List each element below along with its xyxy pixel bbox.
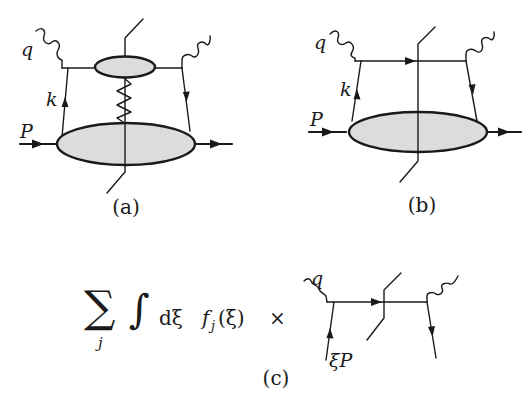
sum-index: j <box>95 334 103 352</box>
photon-left-b <box>330 31 355 61</box>
arrow-right-icon <box>405 57 416 65</box>
arrow-right-icon <box>371 298 382 306</box>
label-q-b: q <box>314 31 326 53</box>
cut-line-a <box>107 19 143 193</box>
caption-a: (a) <box>112 195 140 219</box>
hadron-blob-a <box>57 123 195 165</box>
label-q-a: q <box>21 38 33 60</box>
caption-c: (c) <box>263 366 290 390</box>
arrow-right-icon <box>498 128 510 137</box>
photon-right-a <box>182 36 210 68</box>
arrow-right-icon <box>32 140 44 149</box>
label-q-c: q <box>311 267 323 289</box>
photon-right-b <box>466 32 494 61</box>
panel-c: ∑ j ∫ dξ f j (ξ) × q ξP (c) <box>84 267 458 390</box>
arrow-up-icon <box>62 97 69 107</box>
label-k-b: k <box>340 78 352 100</box>
label-xip-c: ξP <box>329 349 353 371</box>
photon-left-a <box>36 29 62 68</box>
arrow-right-icon <box>322 128 334 137</box>
hard-blob-a <box>95 57 155 78</box>
caption-b: (b) <box>408 193 436 217</box>
sum-symbol: ∑ <box>84 281 115 332</box>
measure-dxi: dξ <box>159 306 183 330</box>
label-p-a: P <box>19 120 34 142</box>
pdf-argument: (ξ) <box>218 306 245 330</box>
panel-b: q k P (b) <box>309 27 521 217</box>
arrow-down-icon <box>428 326 435 337</box>
cut-line-c-bottom <box>367 302 384 340</box>
panel-a: q k P (a) <box>19 19 232 219</box>
integral-symbol: ∫ <box>129 286 150 332</box>
photon-right-c <box>427 276 458 302</box>
arrow-up-icon <box>354 89 361 100</box>
arrow-up-icon <box>327 328 334 339</box>
arrow-down-icon <box>183 92 190 103</box>
times-symbol: × <box>269 306 286 330</box>
label-p-b: P <box>309 108 324 130</box>
label-k-a: k <box>46 88 58 110</box>
cut-line-c-top <box>384 273 401 302</box>
arrow-right-icon <box>210 140 222 149</box>
cut-line-b <box>400 27 435 182</box>
zigzag-exchange-a <box>117 78 131 122</box>
feynman-diagram-figure: q k P (a) q k P (b) ∑ j ∫ dξ f j (ξ) × <box>0 0 531 413</box>
